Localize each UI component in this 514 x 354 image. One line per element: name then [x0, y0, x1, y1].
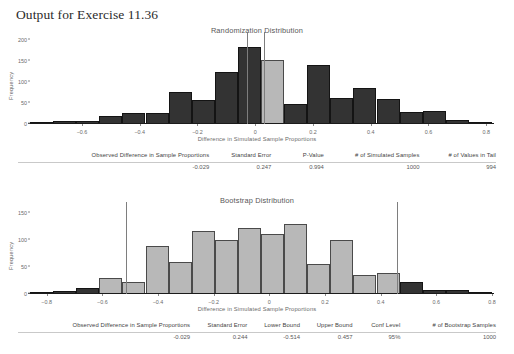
randomization-y-tick-mark — [28, 60, 30, 61]
randomization-y-tick-label: 0 — [24, 121, 27, 127]
bootstrap-bar — [330, 240, 353, 294]
bootstrap-chart-title: Bootstrap Distribution — [0, 196, 514, 205]
randomization-x-tick-mark — [486, 124, 487, 126]
table-header-row: Observed Difference in Sample Proportion… — [18, 322, 496, 331]
bootstrap-bar — [146, 246, 169, 294]
randomization-y-axis-label: Frequency — [8, 72, 14, 100]
randomization-bar — [353, 88, 376, 124]
randomization-x-tick-label: 0 — [254, 129, 257, 135]
bootstrap-marker-line — [126, 202, 127, 294]
randomization-bar — [238, 47, 261, 124]
col-observed-difference: Observed Difference in Sample Proportion… — [18, 152, 209, 161]
bootstrap-x-tick-mark — [269, 294, 270, 296]
randomization-x-tick-label: 0.8 — [482, 129, 490, 135]
randomization-y-tick-label: 100 — [18, 79, 27, 85]
randomization-x-tick-label: 0.6 — [425, 129, 433, 135]
bootstrap-y-tick-label: 150 — [18, 210, 27, 216]
randomization-x-tick-mark — [82, 124, 83, 126]
randomization-x-tick-label: 0.4 — [367, 129, 375, 135]
randomization-x-tick-label: −0.6 — [77, 129, 88, 135]
bootstrap-x-tick-mark — [47, 294, 48, 296]
col-standard-error: Standard Error — [190, 322, 247, 331]
randomization-chart-title: Randomization Distribution — [0, 26, 514, 35]
page-title: Output for Exercise 11.36 — [16, 7, 158, 23]
randomization-y-tick-mark — [28, 123, 30, 124]
randomization-table-divider — [18, 162, 496, 163]
randomization-y-tick-label: 150 — [18, 58, 27, 64]
randomization-x-tick-mark — [140, 124, 141, 126]
randomization-bar — [307, 65, 330, 124]
randomization-bars — [30, 38, 492, 124]
randomization-x-tick-label: −0.4 — [134, 129, 145, 135]
randomization-y-tick-label: 200 — [18, 37, 27, 43]
randomization-bar — [377, 99, 400, 124]
bootstrap-x-tick-label: 0.4 — [377, 299, 385, 305]
randomization-marker-line — [247, 32, 248, 124]
bootstrap-x-tick-label: −0.4 — [153, 299, 164, 305]
randomization-x-tick-mark — [428, 124, 429, 126]
col-p-value: P-Value — [271, 152, 324, 161]
bootstrap-y-tick-mark — [28, 293, 30, 294]
bootstrap-x-tick-mark — [492, 294, 493, 296]
bootstrap-x-tick-label: 0.8 — [488, 299, 496, 305]
bootstrap-y-tick-mark — [28, 266, 30, 267]
col-values-in-tail: # of Values in Tail — [420, 152, 497, 161]
bootstrap-x-tick-mark — [325, 294, 326, 296]
randomization-y-tick-mark — [28, 81, 30, 82]
bootstrap-bars — [30, 208, 492, 294]
bootstrap-y-tick-label: 0 — [24, 291, 27, 297]
randomization-x-tick-mark — [255, 124, 256, 126]
randomization-x-axis-label: Difference in Simulated Sample Proportio… — [0, 136, 514, 142]
col-bootstrap-samples: # of Bootstrap Samples — [400, 322, 496, 331]
bootstrap-x-tick-label: −0.6 — [97, 299, 108, 305]
bootstrap-plot-area: Frequency 050100150 — [30, 208, 492, 294]
randomization-marker-line — [264, 32, 265, 124]
bootstrap-y-tick-mark — [28, 212, 30, 213]
bootstrap-bar — [284, 224, 307, 294]
randomization-plot-area: Frequency 050100150200 — [30, 38, 492, 124]
bootstrap-x-tick-mark — [381, 294, 382, 296]
bootstrap-x-tick-label: −0.2 — [208, 299, 219, 305]
bootstrap-bar — [261, 234, 284, 294]
bootstrap-marker-line — [397, 202, 398, 294]
bootstrap-x-tick-label: 0 — [268, 299, 271, 305]
bootstrap-bar — [238, 228, 261, 294]
col-standard-error: Standard Error — [209, 152, 271, 161]
bootstrap-stats-table: Observed Difference in Sample Proportion… — [18, 322, 496, 340]
randomization-x-tick-label: 0.2 — [309, 129, 317, 135]
bootstrap-table-divider — [18, 332, 496, 333]
randomization-y-tick-label: 50 — [21, 100, 27, 106]
randomization-bar — [330, 98, 353, 124]
bootstrap-x-tick-mark — [102, 294, 103, 296]
bootstrap-x-tick-label: 0.2 — [321, 299, 329, 305]
bootstrap-bar — [215, 240, 238, 294]
randomization-y-tick-mark — [28, 39, 30, 40]
randomization-bar — [192, 100, 215, 124]
randomization-bar — [169, 92, 192, 124]
bootstrap-x-axis-line — [28, 293, 494, 294]
bootstrap-y-tick-mark — [28, 239, 30, 240]
col-observed-difference: Observed Difference in Sample Proportion… — [18, 322, 190, 331]
randomization-y-tick-mark — [28, 102, 30, 103]
col-conf-level: Conf Level — [353, 322, 401, 331]
bootstrap-y-axis-label: Frequency — [8, 242, 14, 270]
col-simulated-samples: # of Simulated Samples — [324, 152, 420, 161]
bootstrap-bar — [307, 264, 330, 294]
randomization-x-tick-mark — [371, 124, 372, 126]
bootstrap-x-tick-label: 0.6 — [433, 299, 441, 305]
table-header-row: Observed Difference in Sample Proportion… — [18, 152, 496, 161]
bootstrap-x-tick-mark — [214, 294, 215, 296]
randomization-bar — [215, 72, 238, 124]
bootstrap-bar — [192, 231, 215, 294]
bootstrap-x-tick-mark — [436, 294, 437, 296]
randomization-x-tick-label: −0.2 — [192, 129, 203, 135]
bootstrap-y-tick-label: 100 — [18, 237, 27, 243]
randomization-distribution-chart: Randomization Distribution Frequency 050… — [0, 26, 514, 144]
bootstrap-y-tick-label: 50 — [21, 264, 27, 270]
bootstrap-distribution-chart: Bootstrap Distribution Frequency 0501001… — [0, 196, 514, 314]
randomization-stats-table: Observed Difference in Sample Proportion… — [18, 152, 496, 170]
bootstrap-bar — [169, 262, 192, 294]
randomization-x-axis-line — [28, 123, 494, 124]
randomization-x-tick-mark — [197, 124, 198, 126]
bootstrap-x-tick-label: −0.8 — [41, 299, 52, 305]
